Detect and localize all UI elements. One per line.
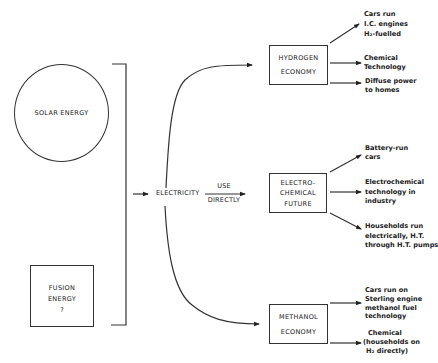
electrochemical-outcome-industry: Electrochemical technology in industry <box>365 178 424 207</box>
hydrogen-outcome-homes: Diffuse power to homes <box>365 77 417 95</box>
methanol-label-1: METHANOL <box>270 313 327 321</box>
use-directly-bottom: DIRECTLY <box>205 197 243 204</box>
methanol-label-2: ECONOMY <box>270 328 327 336</box>
to-methanol-curve <box>165 206 259 324</box>
sources-bracket <box>111 64 126 325</box>
electrochemical-future-node: ELECTRO- CHEMICAL FUTURE <box>269 173 327 213</box>
fusion-label-2: ENERGY <box>31 295 93 303</box>
to-hydrogen-curve <box>166 65 252 188</box>
methanol-outcome-chemical: Chemical (households on H₂ directly) <box>363 329 420 356</box>
use-directly-top: USE <box>205 183 243 190</box>
electrochemical-label-2: CHEMICAL <box>270 189 326 197</box>
hydrogen-economy-node: HYDROGEN ECONOMY <box>269 45 328 85</box>
electrochemical-label-1: ELECTRO- <box>270 179 326 187</box>
electrochemical-label-3: FUTURE <box>270 200 326 208</box>
fusion-label-3: ? <box>31 306 93 314</box>
solar-energy-node: SOLAR ENERGY <box>14 64 109 162</box>
fusion-label-1: FUSION <box>31 284 93 292</box>
electricity-label: ELECTRICITY <box>156 190 199 197</box>
hydrogen-outcome-chemical: Chemical Technology <box>364 54 406 72</box>
methanol-economy-node: METHANOL ECONOMY <box>269 304 328 344</box>
hydrogen-label-2: ECONOMY <box>270 68 327 76</box>
hydrogen-label-1: HYDROGEN <box>270 54 327 62</box>
electrochemical-outcome-cars: Battery-run cars <box>365 144 408 162</box>
solar-energy-label: SOLAR ENERGY <box>15 109 108 117</box>
methanol-outcome-cars: Cars run on Sterling engine methanol fue… <box>365 286 422 321</box>
hydrogen-outcome-cars: Cars run I.C. engines H₂-fuelled <box>364 9 408 39</box>
fusion-energy-node: FUSION ENERGY ? <box>30 265 94 327</box>
electrochemical-outcome-households: Households run electrically, H.T. throug… <box>365 222 438 251</box>
